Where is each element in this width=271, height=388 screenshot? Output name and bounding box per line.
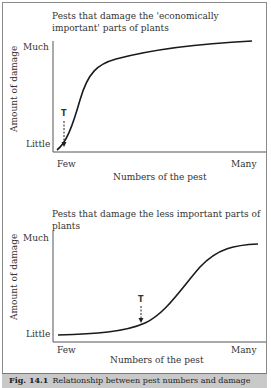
chart2-y-tick-little: Little: [26, 329, 50, 339]
chart2-y-axis-label: Amount of damage: [9, 234, 19, 320]
figure-caption-text: Relationship between pest numbers and da…: [52, 376, 250, 385]
chart2-title: Pests that damage the less important par…: [52, 208, 262, 232]
chart2-x-tick-few: Few: [57, 345, 76, 355]
figure-caption: Fig. 14.1Relationship between pest numbe…: [2, 373, 267, 388]
chart1-damage-curve: [57, 41, 252, 150]
chart2-threshold-arrow-icon: [139, 306, 144, 323]
chart1-threshold-arrow-icon: [62, 121, 67, 147]
chart2-threshold-label: T: [138, 295, 143, 304]
chart1-axes: [53, 41, 266, 152]
chart2-y-tick-much: Much: [23, 233, 49, 243]
chart2-x-tick-many: Many: [231, 345, 256, 355]
chart2-axes: [53, 231, 266, 342]
chart2-damage-curve: [58, 244, 258, 335]
chart2-x-axis-label: Numbers of the pest: [110, 355, 204, 365]
figure-number: Fig. 14.1: [9, 375, 48, 385]
